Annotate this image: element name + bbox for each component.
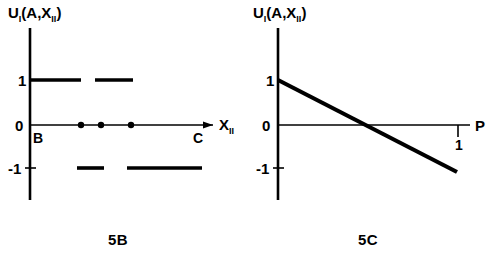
figure-root: UI(A,XII) XII 1 0 -1 B C 5B [0, 0, 491, 270]
y-axis-title-5c: UI(A,XII) [253, 4, 306, 24]
panel-caption-5c: 5C [358, 231, 378, 248]
x-axis-title-5c: P [475, 117, 485, 134]
y-tick-label-1-5b: 1 [18, 72, 26, 89]
y-tick-label-0-5c: 0 [262, 117, 270, 134]
x-point-label-c: C [193, 130, 203, 146]
y-tick-label-minus1-5b: -1 [8, 160, 21, 177]
x-tick-label-1-5c: 1 [455, 137, 463, 153]
y-tick-label-minus1-5c: -1 [256, 160, 269, 177]
y-tick-label-0-5b: 0 [15, 117, 23, 134]
y-axis-title-5b: UI(A,XII) [8, 4, 61, 24]
figure-canvas: UI(A,XII) XII 1 0 -1 B C 5B [0, 0, 491, 270]
panel-caption-5b: 5B [108, 231, 128, 248]
axis-dot-2 [98, 122, 104, 128]
x-axis-title-5b: XII [219, 116, 234, 136]
x-axis-arrow-5b [203, 122, 213, 129]
y-tick-label-1-5c: 1 [266, 72, 274, 89]
panel-5c: UI(A,XII) P 1 0 -1 1 5C [253, 4, 485, 248]
axis-dot-1 [78, 122, 84, 128]
panel-5b: UI(A,XII) XII 1 0 -1 B C 5B [8, 4, 234, 248]
utility-line [278, 80, 457, 172]
x-point-label-b: B [33, 130, 43, 146]
axis-dot-3 [128, 122, 134, 128]
